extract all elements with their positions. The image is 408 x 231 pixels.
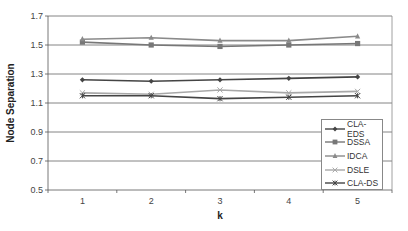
legend-marker-icon: [324, 165, 346, 175]
legend-label: DSLE: [347, 165, 369, 175]
legend-item-cla-ds: CLA-DS: [324, 176, 382, 190]
legend-label: IDCA: [347, 151, 367, 161]
y-axis-ticks: 0.50.70.91.11.31.51.7: [30, 11, 43, 195]
legend-marker-icon: [324, 178, 346, 188]
legend-marker-icon: [324, 137, 346, 147]
y-tick-label: 0.7: [30, 156, 43, 166]
x-tick-label: 3: [217, 196, 222, 206]
series-idca: [80, 33, 360, 43]
y-tick-label: 1.5: [30, 40, 43, 50]
y-tick-label: 0.5: [30, 185, 43, 195]
legend-marker-icon: [324, 151, 346, 161]
legend-marker-icon: [324, 124, 346, 134]
x-tick-label: 2: [149, 196, 154, 206]
x-tick-label: 5: [355, 196, 360, 206]
legend-label: CLA-EDS: [347, 119, 382, 139]
x-axis-title: k: [217, 210, 223, 221]
legend-item-dsle: DSLE: [324, 163, 382, 177]
y-tick-label: 1.3: [30, 69, 43, 79]
y-tick-label: 0.9: [30, 127, 43, 137]
legend: CLA-EDSDSSAIDCADSLECLA-DS: [321, 119, 383, 190]
x-axis-ticks: 12345: [48, 190, 392, 206]
series-lines: [80, 33, 360, 101]
y-tick-label: 1.1: [30, 98, 43, 108]
line-chart: 0.50.70.91.11.31.51.7 12345 Node Separat…: [0, 0, 408, 231]
x-tick-label: 1: [80, 196, 85, 206]
y-axis-title: Node Separation: [5, 63, 16, 142]
legend-item-idca: IDCA: [324, 149, 382, 163]
x-tick-label: 4: [286, 196, 291, 206]
series-cla-eds: [80, 74, 360, 84]
legend-label: CLA-DS: [347, 178, 378, 188]
legend-label: DSSA: [347, 137, 370, 147]
y-tick-label: 1.7: [30, 11, 43, 21]
legend-item-cla-eds: CLA-EDS: [324, 122, 382, 136]
